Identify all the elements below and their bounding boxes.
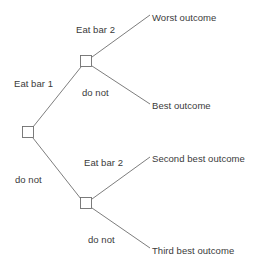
outcome-label-worst: Worst outcome [152, 12, 216, 23]
branch-label-eat-bar-2-lower: Eat bar 2 [84, 157, 123, 168]
edge-do-not-upper [92, 66, 150, 104]
outcome-label-second-best: Second best outcome [152, 153, 245, 164]
branch-label-do-not-root: do not [15, 174, 42, 185]
branch-label-eat-bar-1: Eat bar 1 [14, 78, 53, 89]
tree-edges-and-nodes [0, 0, 265, 267]
root-decision-node[interactable] [23, 127, 34, 138]
outcome-label-third-best: Third best outcome [152, 245, 234, 256]
edge-eat-bar-1 [33, 67, 81, 127]
branch-label-eat-bar-2-upper: Eat bar 2 [76, 24, 115, 35]
edge-eat-bar-2-upper [92, 15, 150, 57]
branch-label-do-not-upper: do not [82, 87, 109, 98]
branch-label-do-not-lower: do not [88, 234, 115, 245]
edge-do-not-root [33, 138, 81, 199]
decision-tree-figure: Eat bar 2 Eat bar 1 do not Eat bar 2 do … [0, 0, 265, 267]
outcome-label-best: Best outcome [152, 100, 211, 111]
lower-decision-node[interactable] [81, 198, 92, 209]
upper-decision-node[interactable] [81, 56, 92, 67]
